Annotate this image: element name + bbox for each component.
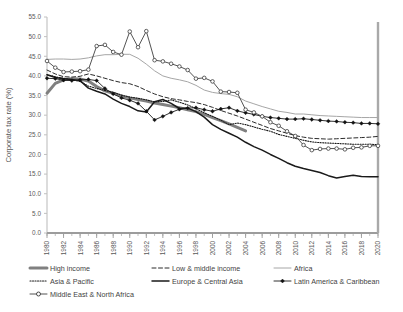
y-tick-label: 20.0 [29, 151, 42, 158]
legend-item: Low & middle income [152, 264, 240, 273]
y-tick-label: 40.0 [29, 72, 42, 79]
legend-label: Middle East & North Africa [50, 290, 134, 299]
x-tick-label: 2000 [209, 241, 216, 256]
chart-legend: High incomeLow & middle incomeAfricaAsia… [30, 264, 380, 299]
chart-container: 0.05.010.015.020.025.030.035.040.045.050… [0, 0, 403, 312]
y-tick-label: 10.0 [29, 190, 42, 197]
y-axis-title: Corporate tax rate (%) [4, 87, 13, 163]
x-tick-label: 1988 [110, 241, 117, 256]
legend-label: Asia & Pacific [50, 277, 94, 286]
x-tick-label: 1994 [159, 241, 166, 256]
y-axis-label: Corporate tax rate (%) [4, 87, 13, 163]
x-tick-label: 2020 [374, 241, 381, 256]
x-tick-label: 2018 [358, 241, 365, 256]
legend-item: Africa [274, 264, 312, 273]
x-tick-label: 2010 [292, 241, 299, 256]
y-tick-label: 55.0 [29, 13, 42, 20]
x-tick-label: 1986 [93, 241, 100, 256]
series-layer [45, 29, 380, 178]
y-tick-label: 50.0 [29, 33, 42, 40]
series-line [47, 75, 378, 178]
x-tick-label: 1980 [43, 241, 50, 256]
x-tick-label: 1984 [77, 241, 84, 256]
x-tick-label: 2004 [242, 241, 249, 256]
legend-label: Low & middle income [172, 264, 240, 273]
legend-item: Asia & Pacific [30, 277, 94, 286]
x-tick-label: 1992 [143, 241, 150, 256]
legend-label: Africa [294, 264, 312, 273]
legend-item: Middle East & North Africa [30, 290, 134, 299]
series-line [47, 79, 246, 131]
legend-label: Europe & Central Asia [172, 277, 243, 286]
x-tick-label: 2002 [225, 241, 232, 256]
legend-label: High income [50, 264, 90, 273]
x-tick-label: 1998 [192, 241, 199, 256]
legend-item: High income [30, 264, 90, 273]
legend-item: Latin America & Caribbean [274, 277, 380, 286]
x-tick-label: 2014 [325, 241, 332, 256]
y-tick-label: 25.0 [29, 131, 42, 138]
x-tick-label: 2008 [275, 241, 282, 256]
y-axis-ticks: 0.05.010.015.020.025.030.035.040.045.050… [29, 13, 47, 236]
x-tick-label: 2016 [341, 241, 348, 256]
y-tick-label: 45.0 [29, 53, 42, 60]
corporate-tax-rate-line-chart: 0.05.010.015.020.025.030.035.040.045.050… [0, 0, 403, 312]
x-tick-label: 1996 [176, 241, 183, 256]
y-tick-label: 0.0 [32, 229, 41, 236]
x-tick-label: 1990 [126, 241, 133, 256]
x-tick-label: 2006 [259, 241, 266, 256]
y-tick-label: 30.0 [29, 111, 42, 118]
x-tick-label: 2012 [308, 241, 315, 256]
y-tick-label: 5.0 [32, 210, 41, 217]
legend-label: Latin America & Caribbean [294, 277, 380, 286]
y-tick-label: 15.0 [29, 170, 42, 177]
x-tick-label: 1982 [60, 241, 67, 256]
y-tick-label: 35.0 [29, 92, 42, 99]
legend-item: Europe & Central Asia [152, 277, 243, 286]
x-axis-ticks: 1980198219841986198819901992199419961998… [43, 233, 381, 255]
